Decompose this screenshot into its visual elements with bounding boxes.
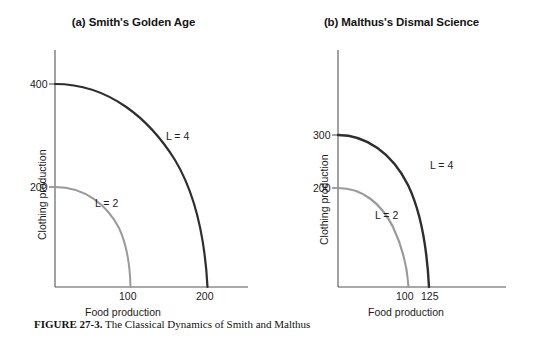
panel-b-xtick-label-125: 125 xyxy=(421,290,439,302)
panel-a-curve-l2 xyxy=(55,187,131,287)
panel-a-xtick-label-200: 200 xyxy=(196,290,214,302)
figure-caption-text: The Classical Dynamics of Smith and Malt… xyxy=(105,318,310,330)
panel-smiths-golden-age: (a) Smith's Golden Age 400 200 100 200 L… xyxy=(0,0,267,305)
panel-b-x-axis-label: Food production xyxy=(368,306,444,318)
panel-b-xtick-label-100: 100 xyxy=(396,290,414,302)
panel-a-curve-label-l4: L = 4 xyxy=(166,130,189,142)
panel-b-ytick-label-300: 300 xyxy=(313,129,331,141)
panel-b-plot xyxy=(268,0,535,305)
panel-b-curve-label-l2: L = 2 xyxy=(375,209,398,221)
panel-b-y-axis-label: Clothing production xyxy=(318,155,330,245)
panel-a-ytick-label-400: 400 xyxy=(30,78,48,90)
panel-a-x-axis-label: Food production xyxy=(85,306,161,318)
panel-a-curve-label-l2: L = 2 xyxy=(95,197,118,209)
panel-malthuss-dismal-science: (b) Malthus's Dismal Science 300 200 100… xyxy=(268,0,535,305)
figure-caption: FIGURE 27-3. The Classical Dynamics of S… xyxy=(34,318,310,330)
panel-b-curve-l2 xyxy=(338,188,409,287)
panel-a-xtick-label-100: 100 xyxy=(119,290,137,302)
figure-root: (a) Smith's Golden Age 400 200 100 200 L… xyxy=(0,0,535,340)
panel-b-curve-label-l4: L = 4 xyxy=(430,159,453,171)
panel-a-curve-l4 xyxy=(55,84,208,287)
panel-a-y-axis-label: Clothing production xyxy=(36,150,48,240)
figure-caption-label: FIGURE 27-3. xyxy=(34,318,102,330)
